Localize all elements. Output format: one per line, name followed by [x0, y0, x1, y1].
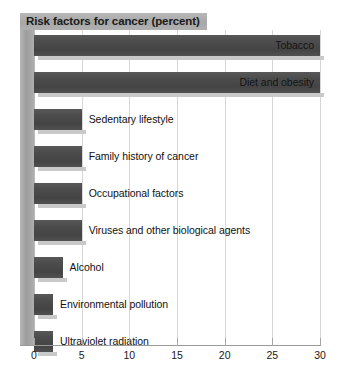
y-axis-band: [20, 14, 34, 345]
x-tick-0: [34, 338, 35, 346]
bar-label: Family history of cancer: [89, 146, 199, 167]
bar-shadow: [38, 56, 324, 60]
bar-label: Diet and obesity: [240, 72, 315, 93]
x-tick-15: [177, 338, 178, 346]
bar: [34, 109, 82, 130]
bar: [34, 183, 82, 204]
bar-row: Environmental pollution: [34, 294, 320, 324]
bar-row: Diet and obesity: [34, 72, 320, 102]
bar: [34, 146, 82, 167]
bar-label: Tobacco: [275, 35, 314, 56]
bar-label: Alcohol: [70, 257, 104, 278]
bar-shadow: [38, 241, 86, 245]
bar-row: Family history of cancer: [34, 146, 320, 176]
gridline-30: [320, 30, 321, 345]
x-tick-10: [129, 338, 130, 346]
bar-shadow: [38, 315, 57, 319]
bar: [34, 220, 82, 241]
x-tick-label-20: 20: [210, 349, 240, 361]
x-tick-label-30: 30: [305, 349, 335, 361]
risk-factors-bar-chart: Risk factors for cancer (percent) Tobacc…: [0, 0, 343, 387]
x-tick-label-5: 5: [67, 349, 97, 361]
bar-shadow: [38, 278, 67, 282]
bar-shadow: [38, 130, 86, 134]
chart-title: Risk factors for cancer (percent): [20, 13, 207, 30]
bar-shadow: [38, 93, 324, 97]
x-tick-30: [320, 338, 321, 346]
bar-row: Viruses and other biological agents: [34, 220, 320, 250]
bar-label: Environmental pollution: [60, 294, 168, 315]
x-tick-5: [82, 338, 83, 346]
bar-row: Alcohol: [34, 257, 320, 287]
bar-row: Tobacco: [34, 35, 320, 65]
bar: [34, 257, 63, 278]
bar-label: Viruses and other biological agents: [89, 220, 251, 241]
bar-shadow: [38, 204, 86, 208]
bar-shadow: [38, 167, 86, 171]
bar: [34, 294, 53, 315]
x-tick-25: [272, 338, 273, 346]
bar-label: Sedentary lifestyle: [89, 109, 174, 130]
x-tick-label-0: 0: [19, 349, 49, 361]
bar-row: Sedentary lifestyle: [34, 109, 320, 139]
x-tick-20: [225, 338, 226, 346]
x-tick-label-25: 25: [257, 349, 287, 361]
x-tick-label-15: 15: [162, 349, 192, 361]
bar-label: Occupational factors: [89, 183, 184, 204]
x-tick-label-10: 10: [114, 349, 144, 361]
bar-row: Occupational factors: [34, 183, 320, 213]
plot-area: TobaccoDiet and obesitySedentary lifesty…: [34, 30, 320, 345]
x-axis-line: [20, 345, 321, 346]
